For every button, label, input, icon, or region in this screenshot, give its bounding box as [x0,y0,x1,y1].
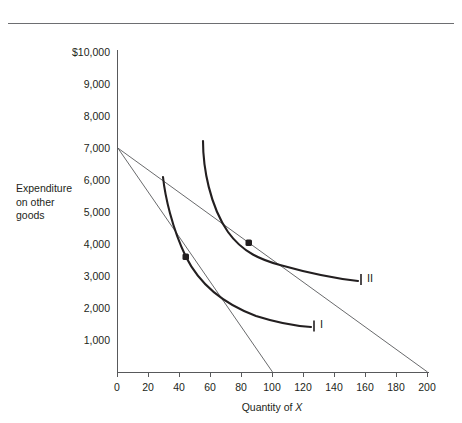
y-axis-title: Expenditure on other goods [16,182,96,223]
x-tick-label-180: 180 [387,381,405,394]
x-tick-label-80: 80 [235,381,247,394]
x-tick-label-140: 140 [325,381,343,394]
x-axis-title: Quantity of X [242,401,303,414]
y-tick-label-7000: 7,000 [47,142,110,155]
y-tick-label-9000: 9,000 [47,78,110,91]
y-tick-label-10000: $10,000 [47,46,110,59]
y-axis-title-line-3: goods [16,209,45,221]
top-horizontal-rule [8,23,454,24]
x-tick-label-20: 20 [142,381,154,394]
x-tick-label-0: 0 [114,381,120,394]
x-tick-label-120: 120 [294,381,312,394]
y-tick-label-4000: 4,000 [47,238,110,251]
indifference-curve-figure: $10,000 9,000 8,000 7,000 6,000 5,000 4,… [0,0,462,423]
y-tick-label-2000: 2,000 [47,302,110,315]
axis-group [118,50,430,373]
tangency-point-2 [246,240,253,247]
curve-label-one: I [320,318,323,331]
tangency-point-1 [183,254,190,261]
indifference-curve-two-group [203,141,361,285]
x-tick-label-160: 160 [356,381,374,394]
y-tick-label-3000: 3,000 [47,270,110,283]
y-axis-title-line-2: on other [16,196,55,208]
x-axis-title-text: Quantity of [242,401,296,413]
y-tick-label-8000: 8,000 [47,110,110,123]
y-tick-label-1000: 1,000 [47,334,110,347]
curve-label-two: II [367,272,373,285]
budget-line-1 [118,148,273,372]
indifference-curve-ii [203,141,358,281]
x-axis-ticks [118,373,428,378]
x-tick-label-100: 100 [263,381,281,394]
x-tick-label-200: 200 [418,381,436,394]
x-axis-title-variable: X [295,401,302,413]
x-tick-label-60: 60 [204,381,216,394]
indifference-curve-i [163,177,311,327]
y-axis-title-line-1: Expenditure [16,182,72,194]
x-tick-label-40: 40 [173,381,185,394]
